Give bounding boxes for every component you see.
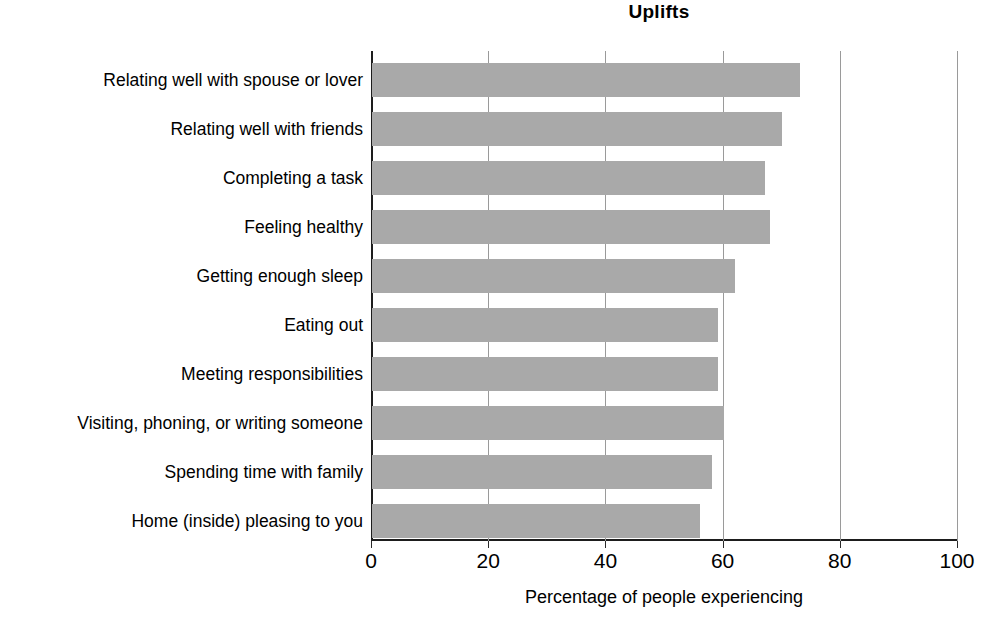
x-axis-line (371, 539, 958, 541)
category-label: Meeting responsibilities (3, 364, 363, 384)
bar (372, 161, 765, 195)
bar (372, 210, 770, 244)
x-tick-label-0: 0 (331, 549, 411, 573)
gridline-80 (840, 51, 841, 541)
category-label: Feeling healthy (3, 217, 363, 237)
bar (372, 406, 724, 440)
x-axis-title: Percentage of people experiencing (371, 586, 957, 608)
bar (372, 308, 718, 342)
bar (372, 259, 735, 293)
category-label: Eating out (3, 315, 363, 335)
x-tick-20 (488, 541, 489, 548)
plot-area: 020406080100 (371, 51, 957, 541)
bar (372, 63, 800, 97)
category-label: Home (inside) pleasing to you (3, 511, 363, 531)
x-tick-label-60: 60 (683, 549, 763, 573)
bar (372, 504, 700, 538)
bar (372, 357, 718, 391)
bar (372, 112, 782, 146)
category-label: Completing a task (3, 168, 363, 188)
category-label: Visiting, phoning, or writing someone (3, 413, 363, 433)
x-tick-label-80: 80 (800, 549, 880, 573)
x-tick-80 (840, 541, 841, 548)
category-axis-labels: Relating well with spouse or loverRelati… (0, 51, 363, 541)
x-tick-60 (723, 541, 724, 548)
x-tick-label-20: 20 (448, 549, 528, 573)
bar (372, 455, 712, 489)
chart-title: Uplifts (0, 1, 988, 23)
category-label: Relating well with friends (3, 119, 363, 139)
x-tick-40 (605, 541, 606, 548)
x-tick-100 (957, 541, 958, 548)
category-label: Getting enough sleep (3, 266, 363, 286)
chart-figure: Uplifts Relating well with spouse or lov… (0, 0, 988, 625)
category-label: Spending time with family (3, 462, 363, 482)
x-tick-label-40: 40 (565, 549, 645, 573)
x-tick-0 (371, 541, 372, 548)
category-label: Relating well with spouse or lover (3, 70, 363, 90)
gridline-100 (957, 51, 958, 541)
x-tick-label-100: 100 (917, 549, 988, 573)
